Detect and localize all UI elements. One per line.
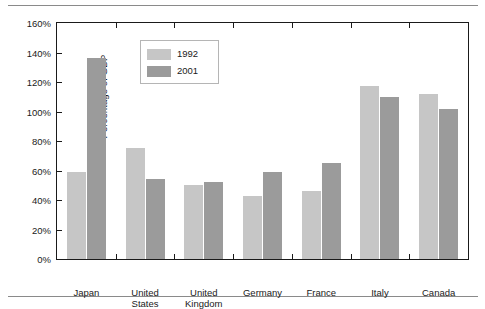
x-axis-category-label: United States [131, 287, 158, 309]
bar [204, 182, 223, 259]
bar [439, 109, 458, 259]
bar [87, 58, 106, 259]
top-divider-rule [8, 5, 478, 6]
y-axis-tick-label: 100% [5, 106, 51, 117]
bar [322, 163, 341, 259]
legend-swatch-1992-icon [147, 49, 171, 60]
bar [67, 172, 86, 259]
bar [302, 191, 321, 259]
plot-area [57, 23, 468, 259]
y-axis-tick-label: 20% [5, 224, 51, 235]
chart-legend: 1992 2001 [140, 40, 219, 84]
y-axis-tick-label: 0% [5, 254, 51, 265]
x-axis-category-label: Japan [73, 287, 99, 298]
bar [263, 172, 282, 259]
x-axis-category-label: Canada [422, 287, 455, 298]
y-axis-tick-label: 80% [5, 136, 51, 147]
x-axis-category-label: France [306, 287, 336, 298]
bar [419, 94, 438, 259]
bar [126, 148, 145, 259]
y-axis-tick-label: 120% [5, 77, 51, 88]
bar [360, 86, 379, 259]
x-axis-category-label: Italy [371, 287, 388, 298]
y-axis-tick-label: 160% [5, 18, 51, 29]
y-axis-tick-label: 140% [5, 47, 51, 58]
y-axis-tick-label: 60% [5, 165, 51, 176]
legend-label: 2001 [177, 65, 198, 76]
legend-swatch-2001-icon [147, 66, 171, 77]
bar [380, 97, 399, 259]
y-axis-tick-label: 40% [5, 195, 51, 206]
plot-frame: Percentage of GDP 0%20%40%60%80%100%120%… [56, 22, 469, 260]
legend-label: 1992 [177, 48, 198, 59]
x-axis-category-label: Germany [243, 287, 282, 298]
bar [184, 185, 203, 259]
bar [146, 179, 165, 259]
x-axis-category-label: United Kingdom [185, 287, 223, 309]
bar [243, 196, 262, 259]
